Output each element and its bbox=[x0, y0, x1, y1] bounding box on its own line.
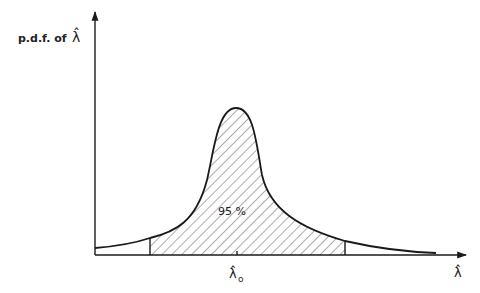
y-axis-label: p.d.f. of bbox=[18, 32, 67, 45]
pdf-diagram: p.d.f. of λ̂ 95 % λ̂ o λ̂ bbox=[0, 0, 480, 293]
x-axis-symbol: λ̂ bbox=[454, 264, 462, 280]
y-axis-label-prefix: p.d.f. of bbox=[18, 32, 67, 45]
center-label: λ̂ bbox=[229, 265, 237, 281]
y-axis-symbol: λ̂ bbox=[72, 27, 80, 45]
shaded-region-label: 95 % bbox=[218, 205, 246, 218]
shaded-95-region bbox=[150, 108, 345, 255]
center-label-subscript: o bbox=[238, 274, 244, 284]
